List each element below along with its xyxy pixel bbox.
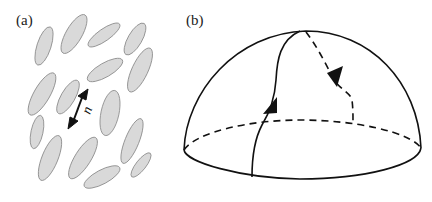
equator-front [184,148,421,179]
arrowhead-down-icon [327,66,343,87]
figure: (a) n (b) [0,0,432,202]
arrowhead-up-icon [263,97,277,114]
panel-b-graphic [0,0,432,202]
path-dashed-descending [306,32,353,122]
hemisphere-dome [184,31,421,150]
equator-back [184,120,421,150]
